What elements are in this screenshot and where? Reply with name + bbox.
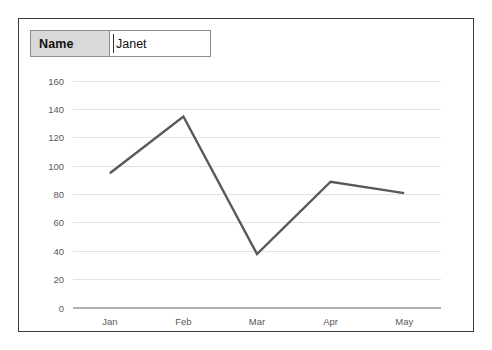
chart-gridlines <box>73 81 441 308</box>
name-label: Name <box>31 31 110 56</box>
name-value-text: Janet <box>116 37 147 51</box>
y-axis-tick-label: 60 <box>53 217 64 228</box>
x-axis-tick-label: Feb <box>175 316 191 327</box>
text-caret <box>113 34 114 53</box>
y-axis-tick-label: 120 <box>48 132 64 143</box>
y-axis-tick-label: 100 <box>48 161 64 172</box>
chart-x-axis-labels: JanFebMarAprMay <box>102 316 413 327</box>
x-axis-tick-label: Jan <box>102 316 117 327</box>
y-axis-tick-label: 20 <box>53 274 64 285</box>
chart-svg: 160140120100806040200 JanFebMarAprMay <box>19 63 475 333</box>
x-axis-tick-label: May <box>395 316 413 327</box>
line-chart: 160140120100806040200 JanFebMarAprMay <box>19 63 475 333</box>
name-field-row: Name Janet <box>30 30 211 57</box>
chart-panel: Name Janet 160140120100806040200 JanFebM… <box>18 18 474 332</box>
y-axis-tick-label: 80 <box>53 189 64 200</box>
y-axis-tick-label: 140 <box>48 104 64 115</box>
name-input[interactable]: Janet <box>110 31 210 56</box>
y-axis-tick-label: 40 <box>53 246 64 257</box>
x-axis-tick-label: Mar <box>249 316 265 327</box>
y-axis-tick-label: 0 <box>59 303 64 314</box>
y-axis-tick-label: 160 <box>48 76 64 87</box>
chart-series-group <box>110 116 404 254</box>
chart-series-line <box>110 116 404 254</box>
chart-y-axis-labels: 160140120100806040200 <box>48 76 64 314</box>
x-axis-tick-label: Apr <box>323 316 338 327</box>
